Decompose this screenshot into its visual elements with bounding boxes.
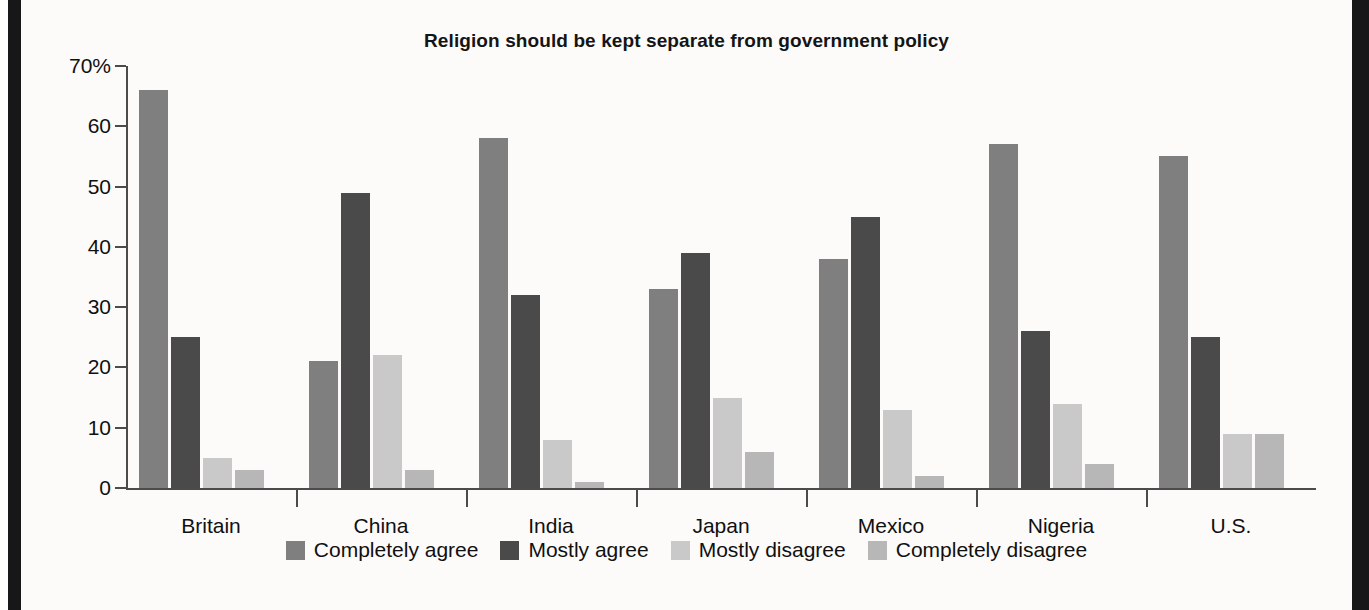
bar	[989, 144, 1018, 488]
bar	[139, 90, 168, 488]
legend-item[interactable]: Mostly disagree	[671, 538, 846, 562]
bar	[309, 361, 338, 488]
bar	[883, 410, 912, 488]
y-axis-tick	[115, 306, 126, 308]
bar	[235, 470, 264, 488]
chart-page: Religion should be kept separate from go…	[0, 0, 1369, 610]
bar	[405, 470, 434, 488]
x-axis-category-label: India	[466, 514, 636, 538]
bar	[171, 337, 200, 488]
y-axis-tick-label: 40	[31, 235, 111, 259]
y-axis-tick	[115, 246, 126, 248]
bar-group	[309, 66, 434, 488]
scan-edge-band-right	[1352, 0, 1369, 610]
bar-group	[479, 66, 604, 488]
legend-label: Completely agree	[314, 538, 479, 562]
bar	[543, 440, 572, 488]
bar	[745, 452, 774, 488]
bar	[341, 193, 370, 488]
x-axis-group-separator	[976, 488, 978, 507]
plot-area: 010203040506070% BritainChinaIndiaJapanM…	[126, 66, 1316, 488]
y-axis-tick-label: 10	[31, 416, 111, 440]
legend-swatch-icon	[868, 541, 887, 560]
x-axis-category-label: China	[296, 514, 466, 538]
bar	[1085, 464, 1114, 488]
bar	[1191, 337, 1220, 488]
bar	[373, 355, 402, 488]
x-axis-category-label: Britain	[126, 514, 296, 538]
x-axis-group-separator	[466, 488, 468, 507]
bar	[1021, 331, 1050, 488]
legend-label: Mostly agree	[528, 538, 648, 562]
bar-group	[1159, 66, 1284, 488]
bar-group	[819, 66, 944, 488]
legend-label: Completely disagree	[896, 538, 1087, 562]
y-axis-labels: 010203040506070%	[31, 66, 111, 489]
x-axis-group-separator	[296, 488, 298, 507]
bar-group	[649, 66, 774, 488]
y-axis-tick-label: 60	[31, 114, 111, 138]
bar	[511, 295, 540, 488]
bar-group	[989, 66, 1114, 488]
y-axis-tick-label: 0	[31, 476, 111, 500]
y-axis-tick	[115, 487, 126, 489]
y-axis-tick-label: 50	[31, 175, 111, 199]
x-axis-line	[126, 488, 1316, 490]
x-axis-group-separator	[636, 488, 638, 507]
bar	[1223, 434, 1252, 488]
legend-item[interactable]: Mostly agree	[500, 538, 648, 562]
bar	[681, 253, 710, 488]
bar	[1159, 156, 1188, 488]
legend-item[interactable]: Completely agree	[286, 538, 479, 562]
y-axis-tick-label: 30	[31, 295, 111, 319]
legend-swatch-icon	[286, 541, 305, 560]
bar	[649, 289, 678, 488]
bar	[713, 398, 742, 488]
y-axis-tick	[115, 366, 126, 368]
bar	[479, 138, 508, 488]
legend-swatch-icon	[500, 541, 519, 560]
x-axis-category-label: Nigeria	[976, 514, 1146, 538]
y-axis-tick	[115, 125, 126, 127]
x-axis-group-separator	[806, 488, 808, 507]
x-axis-group-separator	[1146, 488, 1148, 507]
bar	[1255, 434, 1284, 488]
chart-canvas: Religion should be kept separate from go…	[21, 0, 1352, 610]
bar	[851, 217, 880, 488]
x-axis-category-label: Mexico	[806, 514, 976, 538]
bar	[1053, 404, 1082, 488]
bar-group	[139, 66, 264, 488]
y-axis-line	[126, 66, 128, 489]
scan-edge-band-left	[8, 0, 21, 610]
y-axis-tick-label: 70%	[31, 54, 111, 78]
y-axis-tick	[115, 186, 126, 188]
bar	[915, 476, 944, 488]
legend-item[interactable]: Completely disagree	[868, 538, 1087, 562]
bar	[819, 259, 848, 488]
chart-title: Religion should be kept separate from go…	[21, 30, 1352, 52]
x-axis-category-label: U.S.	[1146, 514, 1316, 538]
legend-label: Mostly disagree	[699, 538, 846, 562]
y-axis-tick	[115, 65, 126, 67]
y-axis-tick-label: 20	[31, 355, 111, 379]
chart-legend: Completely agreeMostly agreeMostly disag…	[21, 538, 1352, 562]
bar	[575, 482, 604, 488]
bar	[203, 458, 232, 488]
legend-swatch-icon	[671, 541, 690, 560]
y-axis-tick	[115, 427, 126, 429]
x-axis-category-label: Japan	[636, 514, 806, 538]
